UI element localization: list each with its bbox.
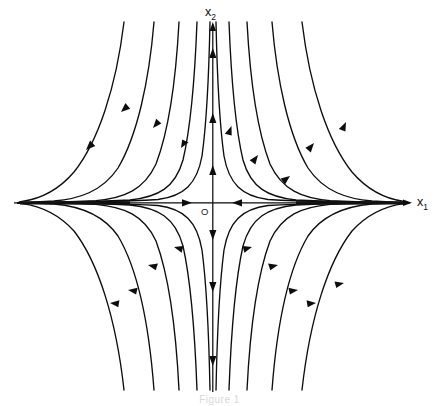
flow-arrow-icon bbox=[243, 246, 252, 253]
trajectories-quadrant-1 bbox=[216, 22, 408, 203]
trajectory-curve bbox=[18, 22, 154, 203]
flow-arrow-icon bbox=[225, 126, 232, 136]
trajectory-curve bbox=[18, 203, 124, 390]
trajectory-curve bbox=[272, 203, 408, 390]
flow-arrow-icon bbox=[209, 48, 216, 58]
trajectory-curve bbox=[18, 203, 154, 390]
trajectory-curve bbox=[18, 22, 210, 203]
x1-axis-arrowhead-icon bbox=[403, 200, 412, 206]
trajectory-curve bbox=[247, 203, 408, 390]
flow-arrow-icon bbox=[148, 264, 158, 271]
trajectory-curve bbox=[229, 22, 408, 203]
flow-arrow-icon bbox=[268, 264, 278, 271]
trajectory-curve bbox=[216, 22, 408, 203]
trajectories-quadrant-3 bbox=[18, 203, 210, 390]
trajectories-quadrant-4 bbox=[216, 203, 408, 390]
flow-arrow-icon bbox=[281, 176, 290, 184]
trajectory-curve bbox=[18, 22, 124, 203]
flow-arrow-icon bbox=[209, 282, 216, 292]
flow-arrow-icon bbox=[307, 300, 316, 307]
flow-arrow-icon bbox=[209, 230, 216, 240]
flow-arrow-icon bbox=[209, 113, 216, 123]
trajectory-curve bbox=[247, 22, 408, 203]
trajectory-curve bbox=[272, 22, 408, 203]
trajectory-curve bbox=[302, 203, 408, 390]
figure-canvas: x2 x1 O Figure 1 bbox=[0, 0, 439, 406]
flow-arrow-icon bbox=[209, 356, 216, 366]
flow-arrow-icon bbox=[86, 141, 95, 150]
phase-portrait-diagram: x2 x1 O bbox=[0, 0, 439, 406]
trajectory-curve bbox=[18, 22, 197, 203]
trajectory-curve bbox=[302, 22, 408, 203]
trajectory-curve bbox=[18, 22, 179, 203]
flow-direction-arrowheads bbox=[86, 48, 346, 366]
flow-arrow-icon bbox=[121, 103, 130, 112]
flow-arrow-icon bbox=[339, 122, 346, 132]
flow-arrow-icon bbox=[335, 281, 345, 288]
flow-arrow-icon bbox=[110, 300, 119, 307]
x2-axis-label: x2 bbox=[205, 5, 216, 22]
flow-arrow-icon bbox=[209, 165, 216, 175]
trajectory-curve bbox=[18, 203, 179, 390]
flow-arrow-icon bbox=[182, 199, 192, 206]
flow-arrow-icon bbox=[250, 155, 258, 165]
flow-arrow-icon bbox=[305, 143, 314, 153]
flow-arrow-icon bbox=[128, 288, 138, 295]
flow-arrow-icon bbox=[153, 119, 161, 128]
figure-caption: Figure 1 bbox=[0, 394, 439, 405]
trajectories-quadrant-2 bbox=[18, 22, 210, 203]
flow-arrow-icon bbox=[288, 288, 298, 295]
x1-axis-label: x1 bbox=[417, 195, 428, 212]
flow-arrow-icon bbox=[174, 246, 183, 253]
origin-label: O bbox=[201, 206, 208, 217]
flow-arrow-icon bbox=[232, 199, 242, 206]
